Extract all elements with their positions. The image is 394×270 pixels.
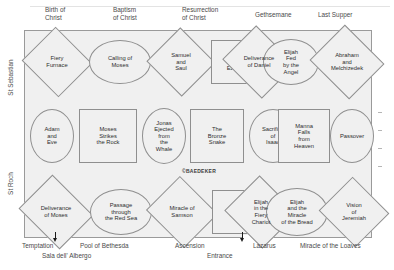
bottom-label-lazarus: Lazarus — [253, 242, 276, 250]
panel-deliverance-of-moses[interactable]: Deliverance of Moses — [27, 188, 85, 236]
bottom-label-ascension: Ascension — [175, 242, 205, 250]
edge-tick — [378, 130, 382, 131]
panel-label: Elijah Fed by the Angel — [281, 49, 301, 75]
panel-label: Manna Falls from Heaven — [292, 123, 316, 149]
bottom-label-entrance: Entrance — [207, 252, 233, 260]
panel-passover[interactable]: Passover — [330, 109, 374, 163]
wall-label-st-sebastian: St Sebastian — [7, 56, 14, 100]
wall-label-st-roch: St Roch — [7, 164, 14, 204]
top-label-baptism-of-christ: Baptism of Christ — [113, 6, 137, 22]
panel-fiery-furnace[interactable]: Fiery Furnace — [31, 38, 83, 86]
panel-samuel-and-saul[interactable]: Samuel and Saul — [156, 38, 206, 86]
panel-label: Moses Strikes the Rock — [95, 126, 122, 146]
top-label-gethsemane: Gethsemane — [255, 11, 292, 19]
bottom-label-temptation: Temptation — [22, 242, 53, 250]
panel-label: The Bronze Snake — [206, 126, 228, 146]
edge-tick — [378, 148, 382, 149]
panel-passage-through-the-red-sea[interactable]: Passage through the Red Sea — [90, 189, 152, 235]
panel-label: Adam and Eve — [42, 126, 61, 146]
panel-label: Fiery Furnace — [44, 55, 69, 68]
panel-miracle-of-samson[interactable]: Miracle of Samson — [155, 188, 209, 236]
panel-calling-of-moses[interactable]: Calling of Moses — [89, 40, 151, 84]
panel-label: Passover — [338, 133, 366, 140]
top-label-birth-of-christ: Birth of Christ — [45, 6, 65, 22]
panel-elijah-and-the-miracle-of-the-bread[interactable]: Elijah and the Miracle of the Bread — [266, 188, 328, 236]
panel-label: Deliverance of Daniel — [242, 55, 277, 68]
bottom-label-sala-dell-albergo: Sala dell' Albergo — [42, 252, 91, 260]
top-label-resurrection-of-christ: Resurrection of Christ — [182, 6, 218, 22]
top-label-last-supper: Last Supper — [318, 11, 352, 19]
panel-abraham-and-melchizedek[interactable]: Abraham and Melchizedek — [319, 37, 375, 87]
panel-label: Elijah and the Miracle of the Bread — [279, 199, 315, 225]
panel-vision-of-jeremiah[interactable]: Vision of Jeremiah — [328, 188, 380, 236]
bottom-label-miracle-of-the-loaves: Miracle of the Loaves — [300, 242, 361, 250]
panel-jonas-ejected-from-the-whale[interactable]: Jonas Ejected from the Whale — [142, 108, 186, 164]
panel-label: Samuel and Saul — [169, 52, 193, 72]
panel-moses-strikes-the-rock[interactable]: Moses Strikes the Rock — [79, 109, 137, 163]
panel-label: Jonas Ejected from the Whale — [152, 120, 175, 153]
panel-the-bronze-snake[interactable]: The Bronze Snake — [190, 109, 244, 163]
panel-manna-falls-from-heaven[interactable]: Manna Falls from Heaven — [278, 109, 330, 163]
panel-label: Vision of Jeremiah — [340, 202, 368, 222]
baedeker-watermark: ©BAEDEKER — [182, 168, 216, 174]
panel-label: Calling of Moses — [106, 55, 134, 68]
edge-tick — [378, 112, 382, 113]
floor-plan-page: Birth of ChristBaptism of ChristResurrec… — [0, 0, 394, 270]
panel-adam-and-eve[interactable]: Adam and Eve — [30, 109, 74, 163]
panel-label: Deliverance of Moses — [39, 205, 74, 218]
panel-label: Passage through the Red Sea — [103, 202, 139, 222]
edge-tick — [378, 166, 382, 167]
panel-label: Abraham and Melchizedek — [329, 52, 365, 72]
bottom-label-pool-of-bethesda: Pool of Bethesda — [80, 242, 129, 250]
panel-label: Miracle of Samson — [167, 205, 196, 218]
panel-label: Elijah in the Fiery Chariot — [250, 199, 273, 225]
